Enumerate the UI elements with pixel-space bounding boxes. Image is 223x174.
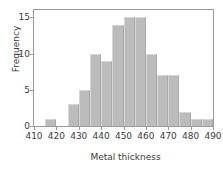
- x-axis-tick: [168, 126, 169, 130]
- y-axis-tick-label: 0: [24, 121, 30, 131]
- histogram-bar: [112, 25, 123, 127]
- x-axis-tick: [101, 126, 102, 130]
- histogram-bar: [157, 75, 168, 126]
- x-axis-tick: [213, 126, 214, 130]
- x-axis-tick-label: 470: [160, 131, 177, 141]
- y-axis-tick-label: 10: [19, 49, 30, 59]
- x-axis-tick: [79, 126, 80, 130]
- y-axis-tick-label: 15: [19, 12, 30, 22]
- histogram-bar: [135, 17, 146, 126]
- histogram-bar: [191, 119, 202, 126]
- x-axis-tick-label: 480: [182, 131, 199, 141]
- x-axis-tick-label: 460: [137, 131, 154, 141]
- x-axis-tick-label: 410: [25, 131, 42, 141]
- histogram-bar: [168, 75, 179, 126]
- y-axis-tick: [30, 90, 34, 91]
- x-axis-tick-label: 440: [93, 131, 110, 141]
- x-axis-tick: [124, 126, 125, 130]
- histogram-bar: [68, 104, 79, 126]
- histogram-bar: [146, 54, 157, 127]
- histogram-figure: Frequency 051015410420430440450460470480…: [0, 0, 223, 174]
- x-axis-tick: [34, 126, 35, 130]
- plot-area: 051015410420430440450460470480490: [33, 9, 214, 127]
- histogram-bar: [45, 119, 56, 126]
- x-axis-title: Metal thickness: [33, 152, 218, 162]
- x-axis-tick-label: 420: [48, 131, 65, 141]
- y-axis-tick-label: 5: [24, 85, 30, 95]
- histogram-bar: [202, 119, 213, 126]
- histogram-bar: [79, 90, 90, 126]
- x-axis-tick-label: 430: [70, 131, 87, 141]
- histogram-bar: [90, 54, 101, 127]
- histogram-bar: [101, 61, 112, 126]
- x-axis-tick: [191, 126, 192, 130]
- x-axis-tick: [56, 126, 57, 130]
- histogram-bar: [179, 112, 190, 127]
- bars-group: [34, 10, 213, 126]
- y-axis-tick: [30, 17, 34, 18]
- histogram-bar: [124, 17, 135, 126]
- y-axis-tick: [30, 54, 34, 55]
- x-axis-tick: [146, 126, 147, 130]
- x-axis-tick-label: 450: [115, 131, 132, 141]
- x-axis-tick-label: 490: [204, 131, 221, 141]
